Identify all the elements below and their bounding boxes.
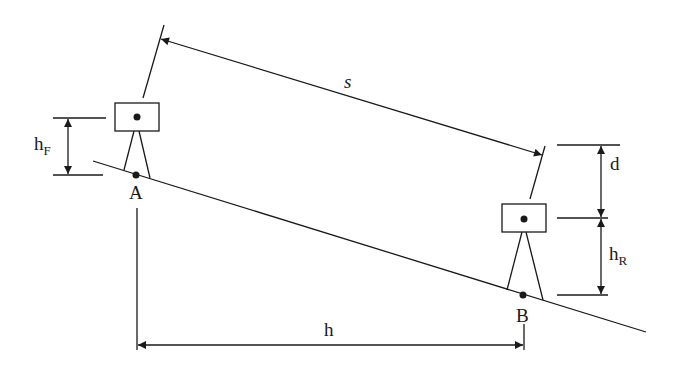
instrument-B-tripod-right	[526, 232, 543, 300]
label-s: s	[344, 71, 351, 92]
point-A-dot	[133, 172, 140, 179]
ground-slope-line	[93, 161, 646, 332]
label-h: h	[324, 319, 334, 340]
label-point-A: A	[129, 182, 143, 203]
s-dimension-arrow	[161, 39, 542, 155]
label-hR: hR	[609, 243, 628, 268]
label-hR-sub: R	[619, 253, 628, 268]
instrument-A-tripod-right	[139, 131, 150, 178]
instrument-B-tripod-left	[507, 232, 522, 290]
s-extension-left	[143, 25, 164, 98]
label-hF-main: h	[34, 133, 44, 154]
label-point-B: B	[516, 305, 529, 326]
label-hF: hF	[34, 133, 51, 158]
point-B-dot	[520, 292, 527, 299]
instrument-A-center-dot	[134, 114, 141, 121]
label-hR-main: h	[609, 243, 619, 264]
instrument-B-center-dot	[521, 216, 528, 223]
label-hF-sub: F	[44, 143, 51, 158]
label-d: d	[610, 153, 620, 174]
surveying-diagram: A B s h d hF hR	[0, 0, 673, 372]
instrument-A-tripod-left	[124, 131, 134, 170]
